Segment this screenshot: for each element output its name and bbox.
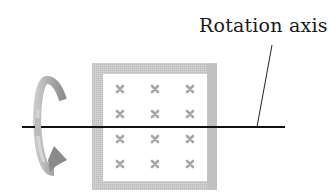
diagram-canvas [0,0,328,192]
label-leader-line [257,45,272,127]
